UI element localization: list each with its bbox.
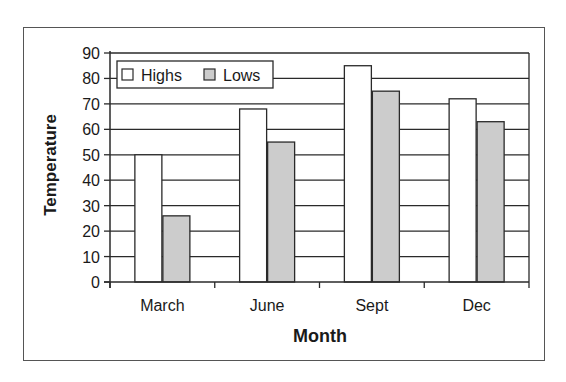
bar-lows-sept — [372, 91, 399, 282]
bar-chart: 0102030405060708090 MarchJuneSeptDec Tem… — [0, 0, 566, 382]
y-tick-label: 60 — [82, 121, 100, 138]
x-tick-label: June — [250, 297, 285, 314]
bar-highs-june — [240, 109, 267, 282]
x-tick-label: Dec — [462, 297, 490, 314]
y-tick-label: 0 — [91, 274, 100, 291]
bar-highs-dec — [449, 99, 476, 282]
y-tick-labels: 0102030405060708090 — [82, 45, 100, 291]
bar-lows-dec — [477, 122, 504, 282]
legend-swatch-lows — [204, 69, 215, 80]
x-axis-title: Month — [293, 326, 347, 346]
y-tick-label: 20 — [82, 223, 100, 240]
y-tick-label: 90 — [82, 45, 100, 62]
legend-label-lows: Lows — [223, 67, 260, 84]
y-tick-label: 40 — [82, 172, 100, 189]
x-tick-label: Sept — [355, 297, 388, 314]
y-tick-label: 10 — [82, 249, 100, 266]
x-tick-label: March — [140, 297, 184, 314]
x-tick-labels: MarchJuneSeptDec — [140, 297, 491, 314]
legend-swatch-highs — [122, 69, 133, 80]
bar-highs-sept — [344, 66, 371, 282]
bar-lows-june — [268, 142, 295, 282]
legend: HighsLows — [117, 61, 273, 88]
y-tick-label: 50 — [82, 147, 100, 164]
bar-lows-march — [163, 216, 190, 282]
y-axis-title: Temperature — [41, 114, 60, 216]
y-tick-label: 30 — [82, 198, 100, 215]
y-tick-label: 70 — [82, 96, 100, 113]
bar-highs-march — [135, 155, 162, 282]
y-tick-label: 80 — [82, 70, 100, 87]
bars — [135, 66, 504, 282]
legend-label-highs: Highs — [141, 67, 182, 84]
